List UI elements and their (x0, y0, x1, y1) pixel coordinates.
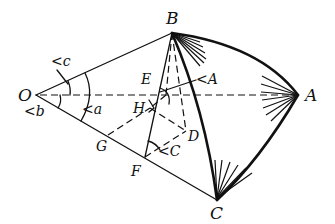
label-E: E (140, 71, 151, 87)
label-angle-a: <a (82, 101, 102, 117)
label-H: H (132, 100, 146, 116)
arc-AC (217, 95, 298, 200)
angle-arc-c (68, 81, 70, 95)
hatch-C (215, 160, 252, 198)
arc-BC (172, 33, 217, 200)
label-A: A (303, 85, 317, 105)
label-D: D (187, 128, 199, 144)
spherical-triangle-diagram: O B A C E H D G F <c <b <a <A <C (0, 0, 335, 224)
edge-BE-dashed (166, 33, 172, 95)
label-angle-A: <A (196, 71, 218, 87)
angle-c-pointer (57, 70, 68, 84)
label-G: G (96, 138, 107, 154)
label-angle-b: <b (24, 103, 45, 119)
label-C: C (210, 203, 223, 223)
label-angle-C: <C (158, 143, 181, 159)
angle-arc-b (58, 95, 61, 108)
label-angle-c: <c (51, 53, 71, 69)
edge-HD-dashed (150, 108, 186, 131)
edge-OC (36, 95, 217, 200)
label-O: O (18, 85, 32, 105)
hatch-A (261, 76, 298, 121)
label-B: B (165, 8, 179, 28)
label-F: F (130, 163, 142, 179)
